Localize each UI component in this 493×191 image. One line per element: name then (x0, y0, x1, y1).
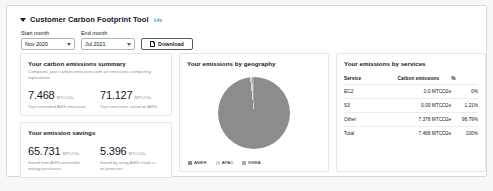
table-row: Total7.468 MTCO2e100% (344, 127, 478, 141)
metric-caption: Your emissions saved on AWS (100, 104, 162, 109)
column-header-percent: % (451, 73, 478, 85)
legend-item-label: APAC (222, 160, 234, 165)
emissions-by-services-card: Your emissions by services Service Carbo… (336, 53, 486, 172)
metric-caption: Saved by using AWS cloud vs. on-premises (100, 160, 162, 171)
table-row: S30.09 MTCO2e1.21% (344, 99, 478, 113)
metric-unit: MTCO2e (134, 95, 151, 100)
legend-swatch-icon (188, 161, 192, 165)
emissions-by-geography-card: Your emissions by geography AMERAPACEMEA (179, 53, 329, 172)
download-button[interactable]: Download (141, 38, 193, 50)
cell-emissions: 0.0 MTCO2e (398, 85, 452, 99)
app-canvas: Customer Carbon Footprint Tool Info Star… (0, 0, 493, 191)
chevron-down-icon (67, 43, 71, 46)
end-month-select[interactable]: Jul 2021 (81, 38, 135, 50)
cell-service: S3 (344, 99, 398, 113)
services-table-head: Service Carbon emissions % (344, 73, 478, 85)
metric-unit: MTCO2e (129, 151, 146, 156)
cell-percent: 1.21% (451, 99, 478, 113)
metric-value: 71.127 (100, 89, 132, 101)
legend-item-apac[interactable]: APAC (216, 160, 234, 165)
geography-pie-chart[interactable] (218, 77, 290, 149)
pie-chart-wrap (187, 69, 321, 157)
info-link[interactable]: Info (154, 17, 162, 23)
caret-down-icon[interactable] (20, 18, 26, 22)
summary-card-subtitle: Compares your carbon emissions with an e… (28, 69, 164, 80)
metric-value-row: 5.396 MTCO2e (100, 145, 162, 157)
page-title: Customer Carbon Footprint Tool (30, 15, 149, 24)
end-month-value: Jul 2021 (85, 41, 105, 47)
start-month-value: Nov 2020 (25, 41, 48, 47)
cell-service: Total (344, 127, 398, 141)
savings-card-title: Your emission savings (28, 129, 164, 136)
metric-value: 7.468 (28, 89, 55, 101)
geography-card-title: Your emissions by geography (187, 60, 321, 67)
start-month-select[interactable]: Nov 2020 (21, 38, 75, 50)
legend-item-amer[interactable]: AMER (188, 160, 207, 165)
panel-header: Customer Carbon Footprint Tool Info (20, 15, 162, 24)
metric-unit: MTCO2e (62, 151, 79, 156)
metric-renewable-savings: 65.731 MTCO2e Saved from AWS renewable e… (28, 145, 90, 171)
cell-service: EC2 (344, 85, 398, 99)
start-month-label: Start month (21, 30, 75, 36)
end-month-field: End month Jul 2021 (81, 30, 135, 50)
left-column: Your carbon emissions summary Compares y… (20, 53, 172, 178)
column-header-emissions: Carbon emissions (398, 73, 452, 85)
legend-swatch-icon (242, 161, 246, 165)
legend-swatch-icon (216, 161, 220, 165)
legend-item-label: EMEA (248, 160, 260, 165)
metric-value-row: 7.468 MTCO2e (28, 89, 90, 101)
column-header-service: Service (344, 73, 398, 85)
geography-legend: AMERAPACEMEA (187, 160, 321, 165)
table-row: Other7.378 MTCO2e98.79% (344, 113, 478, 127)
document-download-icon (150, 41, 155, 47)
services-table-body: EC20.0 MTCO2e0%S30.09 MTCO2e1.21%Other7.… (344, 85, 478, 141)
middle-column: Your emissions by geography AMERAPACEMEA (179, 53, 329, 178)
cell-emissions: 7.378 MTCO2e (398, 113, 452, 127)
chevron-down-icon (127, 43, 131, 46)
cell-percent: 100% (451, 127, 478, 141)
carbon-emissions-summary-card: Your carbon emissions summary Compares y… (20, 53, 172, 116)
metric-value: 65.731 (28, 145, 60, 157)
metric-caption: Your estimated AWS emissions (28, 104, 90, 109)
metric-emissions-saved: 71.127 MTCO2e Your emissions saved on AW… (100, 89, 162, 109)
services-card-title: Your emissions by services (344, 60, 478, 67)
download-button-label: Download (158, 41, 184, 47)
legend-item-emea[interactable]: EMEA (242, 160, 260, 165)
dashboard-body: Your carbon emissions summary Compares y… (20, 53, 487, 178)
cell-emissions: 0.09 MTCO2e (398, 99, 452, 113)
cell-emissions: 7.468 MTCO2e (398, 127, 452, 141)
metric-unit: MTCO2e (57, 95, 74, 100)
metric-value-row: 71.127 MTCO2e (100, 89, 162, 101)
summary-metrics: 7.468 MTCO2e Your estimated AWS emission… (28, 89, 164, 109)
start-month-field: Start month Nov 2020 (21, 30, 75, 50)
metric-value: 5.396 (100, 145, 127, 157)
end-month-label: End month (81, 30, 135, 36)
metric-cloud-efficiency-savings: 5.396 MTCO2e Saved by using AWS cloud vs… (100, 145, 162, 171)
services-table: Service Carbon emissions % EC20.0 MTCO2e… (344, 73, 478, 140)
table-header-row: Service Carbon emissions % (344, 73, 478, 85)
savings-metrics: 65.731 MTCO2e Saved from AWS renewable e… (28, 145, 164, 171)
carbon-footprint-panel: Customer Carbon Footprint Tool Info Star… (6, 5, 487, 177)
filter-controls: Start month Nov 2020 End month Jul 2021 … (21, 30, 193, 50)
emission-savings-card: Your emission savings 65.731 MTCO2e Save… (20, 122, 172, 178)
legend-item-label: AMER (194, 160, 207, 165)
summary-card-title: Your carbon emissions summary (28, 60, 164, 67)
cell-percent: 0% (451, 85, 478, 99)
table-row: EC20.0 MTCO2e0% (344, 85, 478, 99)
metric-caption: Saved from AWS renewable energy purchase… (28, 160, 90, 171)
cell-service: Other (344, 113, 398, 127)
right-column: Your emissions by services Service Carbo… (336, 53, 486, 178)
metric-value-row: 65.731 MTCO2e (28, 145, 90, 157)
cell-percent: 98.79% (451, 113, 478, 127)
metric-estimated-emissions: 7.468 MTCO2e Your estimated AWS emission… (28, 89, 90, 109)
